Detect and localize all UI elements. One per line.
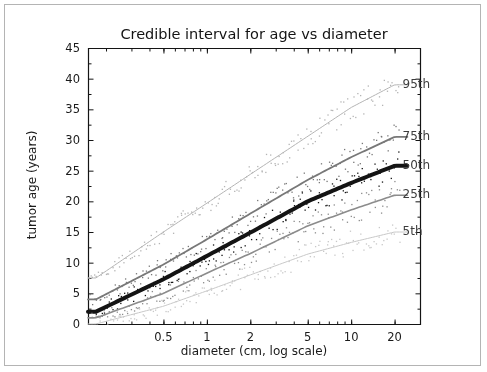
x-tick-label: 10	[331, 330, 371, 344]
y-tick-label: 35	[50, 102, 80, 116]
y-tick-label: 5	[50, 286, 80, 300]
y-tick-label: 30	[50, 133, 80, 147]
x-tick-label: 20	[375, 330, 415, 344]
y-tick-label: 20	[50, 194, 80, 208]
x-tick-label: 1	[187, 330, 227, 344]
y-axis-label: tumor age (years)	[25, 105, 39, 265]
y-tick-label: 40	[50, 72, 80, 86]
series-annotation-75th: 75th	[403, 129, 431, 143]
y-tick-label: 15	[50, 225, 80, 239]
chart-title: Credible interval for age vs diameter	[88, 26, 420, 42]
series-annotation-5th: 5th	[403, 224, 423, 238]
x-tick-label: 5	[288, 330, 328, 344]
y-tick-label: 10	[50, 256, 80, 270]
series-annotation-25th: 25th	[403, 187, 431, 201]
y-tick-label: 0	[50, 317, 80, 331]
x-axis-label: diameter (cm, log scale)	[88, 344, 420, 358]
x-tick-label: 2	[230, 330, 270, 344]
y-tick-label: 45	[50, 41, 80, 55]
y-tick-label: 25	[50, 164, 80, 178]
x-tick-label: 0.5	[143, 330, 183, 344]
series-annotation-50th: 50th	[403, 158, 431, 172]
series-annotation-95th: 95th	[403, 77, 431, 91]
